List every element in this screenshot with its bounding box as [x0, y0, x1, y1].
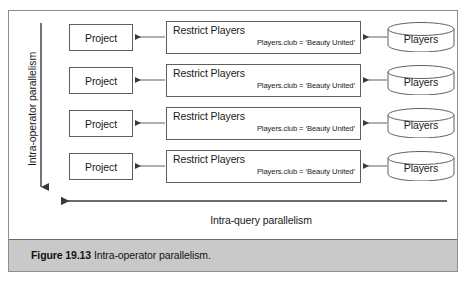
figure-frame: Intra-operator parallelism Project Restr… [8, 10, 458, 272]
project-node-label: Project [85, 75, 117, 87]
players-datastore: Players [387, 22, 455, 52]
restrict-node: Restrict Players Players.club = ‘Beauty … [166, 64, 361, 97]
players-datastore-label: Players [387, 65, 455, 95]
project-node-label: Project [85, 161, 117, 173]
figure-caption: Figure 19.13 Intra-operator parallelism. [31, 249, 211, 261]
restrict-node: Restrict Players Players.club = ‘Beauty … [166, 107, 361, 140]
restrict-node-title: Restrict Players [173, 110, 355, 123]
restrict-node-title: Restrict Players [173, 153, 355, 166]
players-datastore: Players [387, 65, 455, 95]
restrict-node-title: Restrict Players [173, 67, 355, 80]
players-datastore-label: Players [387, 22, 455, 52]
restrict-node: Restrict Players Players.club = ‘Beauty … [166, 150, 361, 183]
players-datastore-label: Players [387, 108, 455, 138]
project-node: Project [69, 110, 133, 137]
figure-caption-text: Intra-operator parallelism. [94, 249, 211, 261]
figure-number: Figure 19.13 [31, 249, 91, 261]
project-node: Project [69, 153, 133, 180]
restrict-node-condition: Players.club = ‘Beauty United’ [173, 80, 355, 91]
restrict-node-title: Restrict Players [173, 24, 355, 37]
figure-root: Intra-operator parallelism Project Restr… [0, 0, 468, 281]
players-datastore-label: Players [387, 151, 455, 181]
project-node: Project [69, 24, 133, 51]
restrict-node-condition: Players.club = ‘Beauty United’ [173, 123, 355, 134]
intra-operator-axis-label: Intra-operator parallelism [26, 24, 38, 194]
project-node-label: Project [85, 32, 117, 44]
diagram-area: Intra-operator parallelism Project Restr… [9, 11, 457, 229]
players-datastore: Players [387, 151, 455, 181]
figure-caption-band: Figure 19.13 Intra-operator parallelism. [9, 239, 457, 271]
intra-query-axis-label: Intra-query parallelism [67, 214, 455, 226]
project-node: Project [69, 67, 133, 94]
restrict-node: Restrict Players Players.club = ‘Beauty … [166, 21, 361, 54]
restrict-node-condition: Players.club = ‘Beauty United’ [173, 37, 355, 48]
restrict-node-condition: Players.club = ‘Beauty United’ [173, 166, 355, 177]
project-node-label: Project [85, 118, 117, 130]
players-datastore: Players [387, 108, 455, 138]
